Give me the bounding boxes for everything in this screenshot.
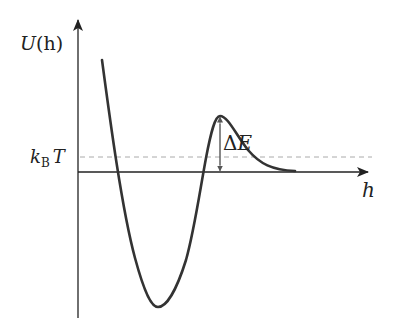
delta-e-label-e: E xyxy=(236,131,252,155)
kbt-label-k: k xyxy=(30,146,41,167)
y-axis-label: U(h) xyxy=(20,32,63,54)
kbt-label-t: T xyxy=(53,146,67,167)
y-axis-label-main: U xyxy=(20,32,37,54)
delta-e-label-delta: Δ xyxy=(223,131,237,155)
potential-curve xyxy=(102,60,295,307)
kbt-label-sub: B xyxy=(41,156,50,170)
potential-diagram: U(h) kBT ΔE h xyxy=(0,0,404,329)
kbt-label: kBT xyxy=(30,146,67,170)
delta-e-label: ΔE xyxy=(223,131,252,155)
x-axis-label: h xyxy=(362,178,375,202)
y-axis-label-arg: (h) xyxy=(36,32,63,54)
